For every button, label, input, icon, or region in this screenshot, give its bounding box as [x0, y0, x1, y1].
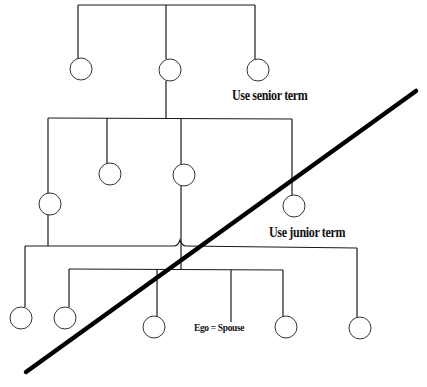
gen3-sibling-bar: [25, 240, 357, 248]
gen4-node-2: [143, 316, 165, 338]
generation-1: [70, 5, 269, 81]
gen2-node-2: [99, 163, 121, 185]
gen4-node-4: [275, 316, 297, 338]
junior-term-label: Use junior term: [269, 225, 345, 241]
ego-spouse-label: Ego = Spouse: [194, 321, 244, 333]
gen4-sibling-bar: [69, 269, 283, 270]
gen3-node-right: [349, 317, 371, 339]
gen2-node-3: [173, 164, 195, 186]
gen4-node-1: [54, 307, 76, 329]
gen2-sibling-bar: [48, 118, 292, 119]
gen1-node-middle: [159, 59, 181, 81]
gen3-node-left: [10, 307, 32, 329]
gen2-node-1: [39, 193, 61, 215]
gen1-node-left: [70, 58, 92, 80]
gen1-node-right: [247, 59, 269, 81]
senior-term-label: Use senior term: [232, 88, 308, 104]
gen2-node-4: [283, 195, 305, 217]
